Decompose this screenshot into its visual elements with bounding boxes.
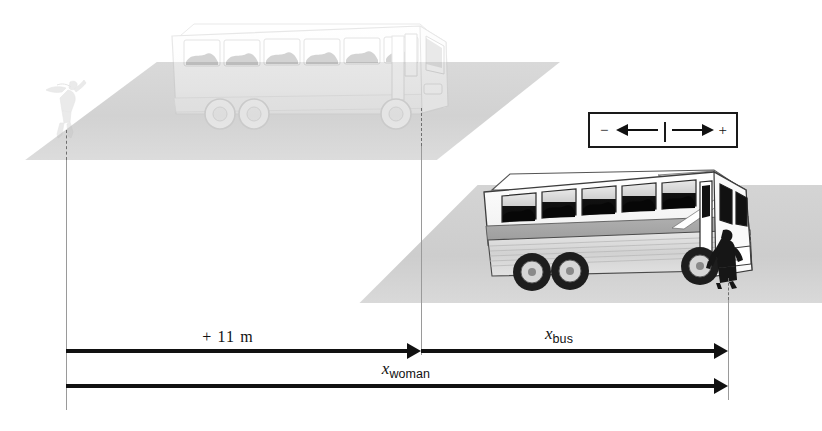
arrow-head-right-icon xyxy=(714,343,728,359)
reference-line-origin-dashed xyxy=(66,130,67,160)
measurement-arrow-displacement-woman xyxy=(66,382,728,390)
legend-right-arrow-icon xyxy=(702,124,714,136)
physics-figure-canvas: + 11 m xbus xwoman − + xyxy=(0,0,822,431)
sign-convention-legend: − + xyxy=(588,112,738,148)
arrow-shaft xyxy=(66,349,407,353)
reference-line-bus-end xyxy=(728,300,729,400)
woman-running xyxy=(40,78,88,144)
legend-negative-sign: − xyxy=(600,122,608,139)
bus-initial-position xyxy=(158,14,458,144)
arrow-head-right-icon xyxy=(407,343,421,359)
label-variable: x xyxy=(545,324,553,343)
legend-right-arrow-shaft xyxy=(672,129,702,131)
arrow-head-right-icon xyxy=(714,378,728,394)
woman-boarding xyxy=(706,228,746,294)
label-displacement-woman: xwoman xyxy=(382,360,430,380)
arrow-shaft xyxy=(421,349,714,353)
legend-left-arrow-icon xyxy=(616,124,628,136)
measurement-arrow-distance-woman-to-bus xyxy=(66,347,421,355)
arrow-shaft xyxy=(66,384,714,388)
measurement-arrow-displacement-bus xyxy=(421,347,728,355)
label-subscript: woman xyxy=(389,367,430,381)
reference-line-bus-start xyxy=(421,146,422,355)
label-displacement-bus: xbus xyxy=(545,325,573,345)
origin-tick-icon xyxy=(664,122,666,142)
label-distance-woman-to-bus: + 11 m xyxy=(202,329,253,345)
legend-left-arrow-shaft xyxy=(628,129,658,131)
reference-line-bus-start-dashed xyxy=(421,108,422,146)
reference-line-bus-end-dashed xyxy=(728,278,729,300)
label-subscript: bus xyxy=(553,332,573,346)
reference-line-origin xyxy=(66,160,67,410)
label-variable: x xyxy=(382,359,390,378)
legend-positive-sign: + xyxy=(719,122,727,139)
